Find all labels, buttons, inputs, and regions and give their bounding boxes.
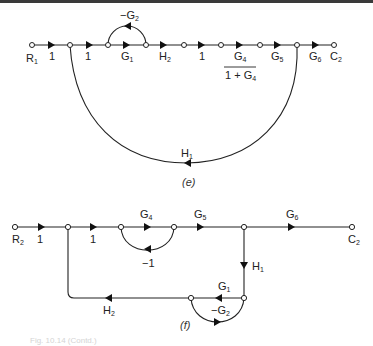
return-gain-g1: G1 [218,280,231,293]
branch-gain: 1 [49,50,55,62]
branch-gain: G5 [271,50,284,63]
output-node-label-e: C2 [330,50,342,63]
inner-loop-arrow [144,245,151,253]
branch-gain: G5 [194,208,207,221]
down-branch-gain: H1 [252,260,264,273]
self-loop-gain: −G2 [120,9,139,22]
branch-gain: G6 [286,208,299,221]
signal-flow-graphs: R1 1 1 G1 H2 1 G4 1 + G4 G5 G6 C2 −G2 H1… [0,0,373,346]
return-gain-h2: H2 [103,304,115,317]
branch-gain: H2 [159,50,171,63]
branch-gain: G4 [140,208,153,221]
branch-gain: 1 [90,233,96,245]
inner-loop-gain: −1 [142,257,155,269]
diagram-f: R2 1 1 G4 G5 G6 C2 −1 H1 G1 −G2 H2 (f) [12,208,360,331]
output-node-label-f: C2 [348,233,360,246]
branch-gain: G6 [309,50,322,63]
return-loop-gain: −G2 [211,304,230,317]
diagram-label-f: (f) [180,319,191,331]
branch-gain: 1 [37,233,43,245]
feedback-gain: H1 [181,147,193,160]
return-arrow-g1 [215,294,222,302]
branch-gain: G1 [121,50,134,63]
nodes-f [12,224,354,300]
return-loop-arrow [214,318,221,326]
self-loop-g2 [108,26,146,45]
diagram-e: R1 1 1 G1 H2 1 G4 1 + G4 G5 G6 C2 −G2 H1… [26,9,342,188]
input-node-label-f: R2 [12,233,24,246]
branch-gain: 1 [85,50,91,62]
diagram-label-e: (e) [182,176,196,188]
branch-gain: 1 [199,50,205,62]
inner-loop-minus1 [121,227,174,250]
feedback-arrow [184,159,191,167]
branch-gain-numerator: G4 [234,50,247,63]
branch-gain-denominator: 1 + G4 [225,69,256,82]
input-node-label-e: R1 [26,52,38,65]
down-branch-arrow [240,262,248,269]
return-arrow-h2 [105,294,112,302]
figure-caption: Fig. 10.14 (Contd.) [30,336,97,345]
self-loop-arrow [124,22,131,30]
feedback-loop-h1 [70,45,297,163]
